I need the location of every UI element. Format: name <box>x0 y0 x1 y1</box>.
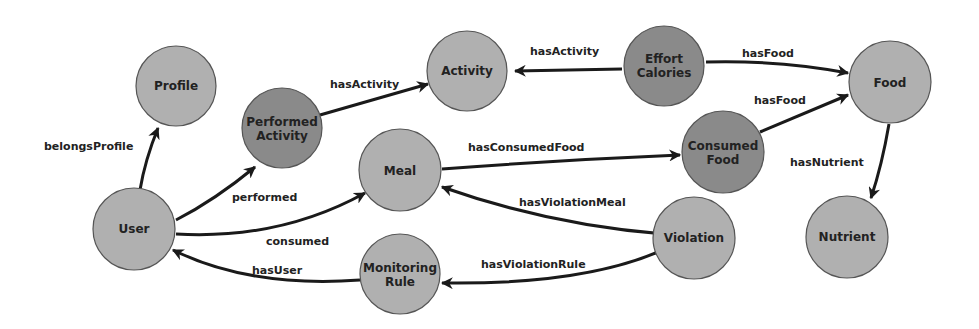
edge-label-has-nutrient: hasNutrient <box>790 156 864 169</box>
svg-text:Performed: Performed <box>246 115 317 129</box>
node-user[interactable]: User <box>93 188 175 270</box>
node-consumed-food[interactable]: Consumed Food <box>682 111 764 193</box>
node-monitoring-rule[interactable]: Monitoring Rule <box>360 234 440 314</box>
edge-label-has-violation-meal: hasViolationMeal <box>519 196 626 209</box>
svg-text:Activity: Activity <box>256 129 308 143</box>
edge-has-violation-meal <box>442 187 664 234</box>
node-activity[interactable]: Activity <box>427 31 507 111</box>
svg-text:Effort: Effort <box>645 52 683 66</box>
edge-label-has-violation-rule: hasViolationRule <box>481 258 586 271</box>
edge-label-has-activity-2: hasActivity <box>530 45 599 58</box>
edge-label-has-user: hasUser <box>252 264 303 277</box>
edge-has-consumed-food <box>442 155 680 169</box>
svg-text:Activity: Activity <box>441 64 493 78</box>
edge-has-nutrient <box>871 124 889 198</box>
svg-text:Consumed: Consumed <box>688 139 759 153</box>
node-profile[interactable]: Profile <box>136 46 216 126</box>
node-performed-activity[interactable]: Performed Activity <box>242 88 322 168</box>
svg-text:Profile: Profile <box>154 79 198 93</box>
node-violation[interactable]: Violation <box>653 197 735 279</box>
edge-label-has-activity-1: hasActivity <box>330 78 399 91</box>
edge-has-activity-2 <box>515 69 622 71</box>
edge-label-has-consumed-food: hasConsumedFood <box>468 141 585 154</box>
svg-text:Monitoring: Monitoring <box>363 261 437 275</box>
svg-text:User: User <box>119 222 150 236</box>
svg-text:Calories: Calories <box>637 66 692 80</box>
node-food[interactable]: Food <box>849 41 931 123</box>
svg-text:Food: Food <box>707 153 740 167</box>
edge-label-belongs-profile: belongsProfile <box>44 140 133 153</box>
node-nutrient[interactable]: Nutrient <box>806 196 888 278</box>
edge-label-consumed: consumed <box>266 235 329 248</box>
svg-text:Food: Food <box>874 76 907 90</box>
ontology-diagram: belongsProfile performed consumed hasUse… <box>0 0 979 329</box>
node-effort-calories[interactable]: Effort Calories <box>624 26 704 106</box>
svg-text:Meal: Meal <box>384 164 416 178</box>
edge-label-has-food-1: hasFood <box>742 47 794 60</box>
svg-text:Rule: Rule <box>385 275 415 289</box>
svg-text:Violation: Violation <box>664 231 724 245</box>
node-meal[interactable]: Meal <box>359 129 441 211</box>
edge-belongs-profile <box>140 128 158 190</box>
edge-label-has-food-2: hasFood <box>754 94 806 107</box>
svg-text:Nutrient: Nutrient <box>819 230 876 244</box>
edge-has-food-1 <box>706 62 848 73</box>
edge-label-performed: performed <box>232 191 297 204</box>
